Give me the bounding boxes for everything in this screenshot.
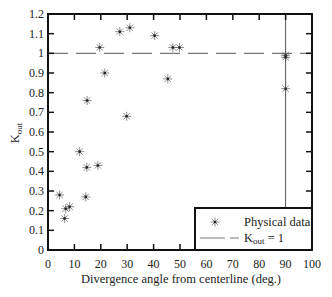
data-point bbox=[81, 192, 90, 201]
data-point bbox=[75, 147, 84, 156]
data-point bbox=[281, 53, 290, 62]
data-point bbox=[65, 202, 74, 211]
data-point bbox=[55, 190, 64, 199]
data-point bbox=[95, 43, 104, 52]
data-point bbox=[122, 112, 131, 121]
data-point bbox=[115, 27, 124, 36]
legend: Physical data Kout = 1 bbox=[195, 208, 312, 250]
x-tick-label: 0 bbox=[45, 257, 51, 271]
y-tick-label: 0.7 bbox=[29, 105, 44, 119]
legend-asterisk bbox=[211, 218, 220, 227]
x-tick-label: 60 bbox=[200, 257, 212, 271]
y-tick-label: 0.6 bbox=[29, 125, 44, 139]
data-point bbox=[281, 84, 290, 93]
y-tick-label: 0.4 bbox=[29, 164, 44, 178]
data-point bbox=[175, 43, 184, 52]
x-tick-label: 100 bbox=[303, 257, 321, 271]
scatter-chart: 0102030405060708090100 00.10.20.30.40.50… bbox=[0, 0, 332, 297]
x-axis-label: Divergence angle from centerline (deg.) bbox=[81, 272, 281, 286]
data-point bbox=[82, 163, 91, 172]
y-axis-label: Kout bbox=[8, 122, 24, 143]
y-tick-label: 0.1 bbox=[29, 223, 44, 237]
y-axis-label-sub: out bbox=[14, 122, 24, 134]
data-point bbox=[150, 31, 159, 40]
data-point bbox=[163, 74, 172, 83]
svg-text:Kout: Kout bbox=[8, 122, 24, 143]
x-tick-label: 30 bbox=[121, 257, 133, 271]
data-point bbox=[83, 96, 92, 105]
data-point bbox=[125, 23, 134, 32]
legend-label-kout: Kout = 1 bbox=[244, 231, 284, 246]
data-point bbox=[60, 214, 69, 223]
x-tick-label: 50 bbox=[174, 257, 186, 271]
x-tick-label: 90 bbox=[280, 257, 292, 271]
x-tick-label: 70 bbox=[227, 257, 239, 271]
y-tick-label: 1.1 bbox=[29, 27, 44, 41]
y-tick-label: 1.2 bbox=[29, 7, 44, 21]
y-axis-label-main: K bbox=[8, 134, 22, 143]
asterisk-marker-icon bbox=[211, 218, 220, 227]
y-tick-label: 0.3 bbox=[29, 184, 44, 198]
y-tick-label: 0.2 bbox=[29, 204, 44, 218]
x-tick-label: 40 bbox=[148, 257, 160, 271]
y-tick-label: 0.5 bbox=[29, 145, 44, 159]
data-point bbox=[93, 161, 102, 170]
y-tick-label: 0.8 bbox=[29, 86, 44, 100]
legend-label-physical-data: Physical data bbox=[244, 215, 311, 229]
y-tick-label: 0.9 bbox=[29, 66, 44, 80]
y-tick-label: 0 bbox=[38, 243, 44, 257]
x-tick-label: 20 bbox=[95, 257, 107, 271]
data-point bbox=[100, 69, 109, 78]
x-tick-label: 10 bbox=[68, 257, 80, 271]
x-tick-label: 80 bbox=[253, 257, 265, 271]
y-tick-label: 1 bbox=[38, 46, 44, 60]
